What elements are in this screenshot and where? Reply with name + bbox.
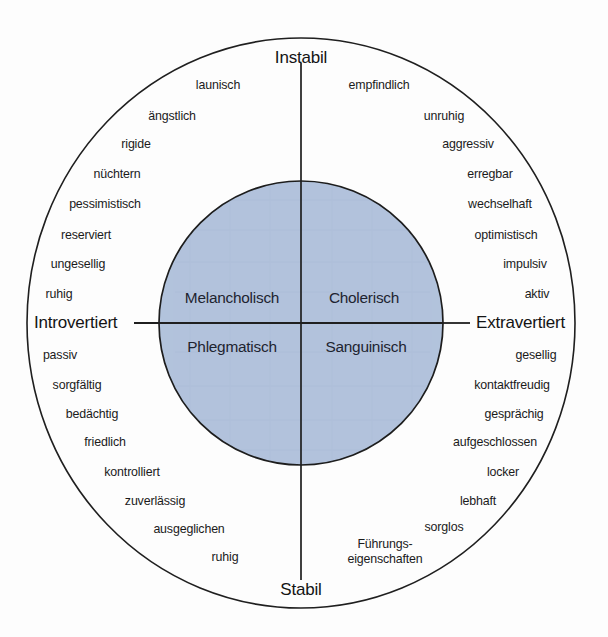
trait-choleric-1: unruhig xyxy=(424,110,464,124)
trait-phlegmatic-1: sorgfältig xyxy=(53,379,102,393)
trait-sanguine-6: sorglos xyxy=(425,521,464,535)
quadrant-label-sanguinisch: Sanguinisch xyxy=(325,338,406,356)
trait-melancholic-5: reserviert xyxy=(61,229,111,243)
quadrant-label-melancholisch: Melancholisch xyxy=(185,289,279,307)
trait-choleric-6: impulsiv xyxy=(503,258,547,272)
trait-melancholic-0: launisch xyxy=(196,79,240,93)
quadrant-label-phlegmatisch: Phlegmatisch xyxy=(187,338,276,356)
trait-choleric-0: empfindlich xyxy=(348,79,409,93)
trait-phlegmatic-3: friedlich xyxy=(84,436,125,450)
axis-label-introvertiert: Introvertiert xyxy=(34,313,117,333)
trait-choleric-3: erregbar xyxy=(467,168,513,182)
trait-phlegmatic-5: zuverlässig xyxy=(125,495,185,509)
trait-sanguine-7: Führungs-eigenschaften xyxy=(347,537,422,566)
trait-choleric-4: wechselhaft xyxy=(468,198,532,212)
trait-sanguine-5: lebhaft xyxy=(460,495,496,509)
trait-choleric-5: optimistisch xyxy=(475,229,538,243)
trait-choleric-7: aktiv xyxy=(525,288,550,302)
trait-melancholic-3: nüchtern xyxy=(93,168,140,182)
trait-melancholic-6: ungesellig xyxy=(51,258,105,272)
trait-phlegmatic-7: ruhig xyxy=(212,551,239,565)
axis-label-instabil: Instabil xyxy=(275,48,327,68)
trait-melancholic-1: ängstlich xyxy=(148,110,196,124)
trait-melancholic-2: rigide xyxy=(121,138,150,152)
axis-label-extravertiert: Extravertiert xyxy=(476,313,565,333)
trait-choleric-2: aggressiv xyxy=(442,138,494,152)
trait-melancholic-7: ruhig xyxy=(46,288,73,302)
trait-phlegmatic-4: kontrolliert xyxy=(104,466,159,480)
trait-phlegmatic-2: bedächtig xyxy=(66,408,118,422)
trait-sanguine-0: gesellig xyxy=(516,349,557,363)
quadrant-label-cholerisch: Cholerisch xyxy=(329,289,399,307)
trait-phlegmatic-6: ausgeglichen xyxy=(153,523,224,537)
axis-label-stabil: Stabil xyxy=(280,580,321,600)
trait-melancholic-4: pessimistisch xyxy=(69,198,141,212)
trait-sanguine-4: locker xyxy=(487,466,519,480)
trait-phlegmatic-0: passiv xyxy=(43,349,77,363)
trait-sanguine-2: gesprächig xyxy=(484,408,543,422)
trait-sanguine-3: aufgeschlossen xyxy=(453,436,537,450)
trait-sanguine-1: kontaktfreudig xyxy=(474,379,550,393)
eysenck-personality-diagram: Instabil Stabil Introvertiert Extraverti… xyxy=(0,0,608,637)
